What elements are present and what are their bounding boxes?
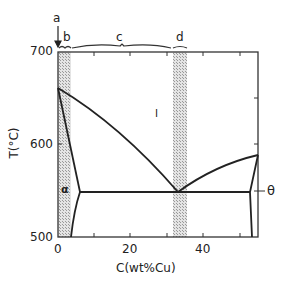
marker-d: d	[176, 31, 184, 43]
phase-label-alpha: α	[61, 184, 69, 195]
marker-a: a	[53, 12, 60, 24]
x-tick-40: 40	[195, 243, 210, 255]
x-tick-20: 20	[122, 243, 137, 255]
y-tick-500: 500	[30, 231, 53, 243]
brace-c	[72, 44, 171, 48]
brace-b	[59, 47, 71, 49]
y-tick-600: 600	[30, 138, 53, 150]
x-tick-0: 0	[54, 243, 62, 255]
region-braces	[59, 44, 187, 48]
marker-b: b	[63, 31, 71, 43]
x-ticks	[58, 52, 258, 237]
marker-c: c	[116, 31, 123, 43]
phase-label-liquid: l	[155, 108, 158, 119]
liquidus-right	[178, 155, 258, 192]
x-axis-label: C(wt%Cu)	[116, 262, 176, 274]
brace-d	[173, 47, 187, 49]
alpha-solvus	[71, 192, 80, 237]
theta-boundary	[250, 155, 258, 237]
y-tick-700: 700	[30, 45, 53, 57]
shaded-band-d	[173, 52, 187, 237]
phase-label-theta: θ	[267, 184, 275, 197]
down-arrow-icon	[55, 26, 61, 47]
plot-frame	[58, 52, 258, 237]
y-axis-label: T(°C)	[8, 127, 20, 158]
